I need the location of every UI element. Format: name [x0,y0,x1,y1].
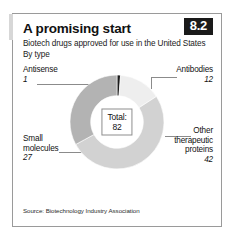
callout-antisense-value: 1 [23,75,58,85]
total-box: Total: 82 [101,109,132,136]
callout-small-molecules-label-line2: molecules [23,144,59,153]
callout-antisense: Antisense 1 [23,65,58,84]
figure-unit-note: By type [23,50,213,60]
callout-other-proteins-label-line2: therapeutic [174,136,213,145]
callout-small-molecules-value: 27 [23,153,59,163]
callout-other-proteins-value: 42 [174,155,213,165]
figure-number-badge: 8.2 [184,18,213,35]
donut-graphic: Total: 82 [69,74,165,170]
figure-subtitle: Biotech drugs approved for use in the Un… [23,39,213,50]
callout-other-proteins: Other therapeutic proteins 42 [174,126,213,164]
callout-other-proteins-label-line1: Other [193,126,213,135]
callout-antibodies-label: Antibodies [176,65,213,74]
callout-small-molecules-label-line1: Small [23,134,43,143]
donut-chart: Antisense 1 Antibodies 12 Small molecule… [13,64,221,200]
total-label: Total: [107,112,126,122]
total-value: 82 [107,122,126,132]
callout-antibodies-value: 12 [176,75,213,85]
callout-small-molecules: Small molecules 27 [23,134,59,163]
figure-card: 8.2 A promising start Biotech drugs appr… [12,13,222,227]
figure-header: 8.2 A promising start Biotech drugs appr… [23,21,213,60]
callout-antisense-label: Antisense [23,65,58,74]
callout-other-proteins-label-line3: proteins [185,145,213,154]
callout-antibodies: Antibodies 12 [176,65,213,84]
source-note: Source: Biotechnology Industry Associati… [23,207,140,214]
